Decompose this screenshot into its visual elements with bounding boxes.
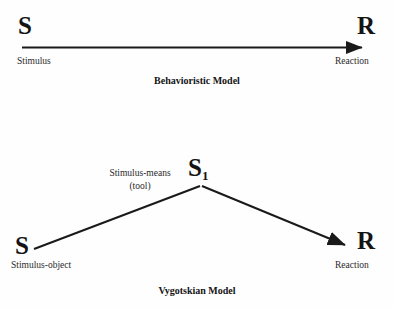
behavioristic-label-reaction: Reaction xyxy=(335,56,369,68)
vygotskian-node-s1-symbol: S xyxy=(188,154,202,181)
vygotskian-node-s1: S1 xyxy=(188,155,208,180)
vygotskian-label-reaction: Reaction xyxy=(335,260,369,272)
vygotskian-label-stimulus-means: Stimulus-means (tool) xyxy=(92,167,188,193)
behavioristic-node-r: R xyxy=(357,13,375,38)
diagram-figure: S R Stimulus Reaction Behavioristic Mode… xyxy=(0,0,394,309)
vygotskian-node-r: R xyxy=(357,228,375,253)
vygotskian-node-s: S xyxy=(15,233,29,258)
vygotskian-label-stimulus-means-line2: (tool) xyxy=(92,180,188,193)
vygotskian-label-stimulus-means-line1: Stimulus-means xyxy=(92,167,188,180)
behavioristic-node-s: S xyxy=(18,13,32,38)
behavioristic-label-stimulus: Stimulus xyxy=(17,56,51,68)
vygotskian-line-s-to-s1 xyxy=(34,186,200,249)
vygotskian-arrow-s1-to-r xyxy=(202,186,345,245)
vygotskian-caption: Vygotskian Model xyxy=(0,285,394,296)
behavioristic-caption: Behavioristic Model xyxy=(0,75,394,86)
vygotskian-node-s1-subscript: 1 xyxy=(202,168,209,183)
vygotskian-label-stimulus-object: Stimulus-object xyxy=(11,260,71,272)
